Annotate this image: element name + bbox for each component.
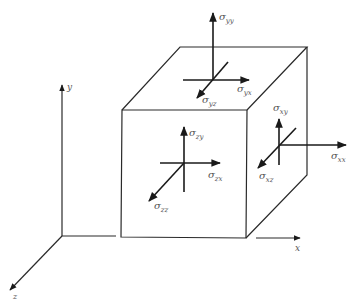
front-face-stresses — [149, 127, 220, 201]
stress-cube-diagram — [0, 0, 357, 308]
sigma-zz-label: σzz — [154, 201, 168, 211]
sigma-zy-label: σzy — [189, 128, 203, 138]
x-axis-label: x — [295, 244, 300, 253]
sigma-yx-label: σyx — [237, 84, 252, 94]
coordinate-axes — [10, 85, 300, 290]
sigma-xz-label: σxz — [259, 171, 273, 181]
y-axis-label: y — [67, 83, 72, 92]
cube-right-face-edges — [246, 47, 307, 238]
sigma-yy-label: σyy — [219, 12, 234, 22]
z-axis-label: z — [13, 293, 17, 301]
sigma-zx-label: σzx — [208, 170, 222, 180]
sigma-xz-arrow — [258, 128, 296, 168]
sigma-yz-label: σyz — [202, 95, 216, 105]
sigma-xy-label: σxy — [273, 103, 288, 113]
sigma-xx-label: σxx — [331, 151, 346, 161]
sigma-zz-arrow — [149, 163, 184, 201]
z-axis — [10, 236, 62, 290]
